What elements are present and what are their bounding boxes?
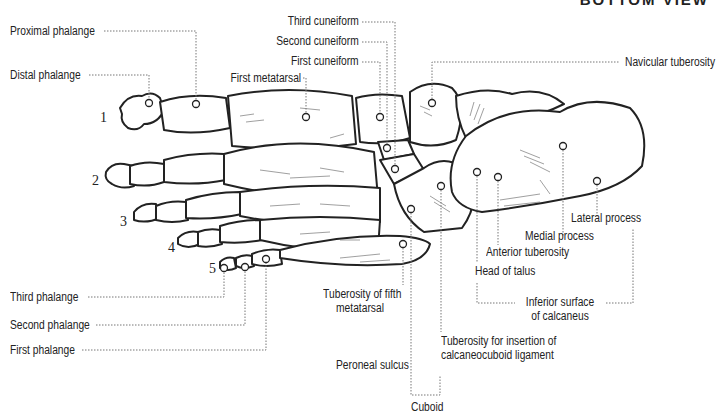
label-anterior-tuberosity: Anterior tuberosity [486, 245, 569, 259]
leader-proximal [104, 31, 196, 100]
leader-first-phalange [82, 263, 266, 350]
label-tuberosity-insertion-1: Tuberosity for insertion of [441, 334, 556, 348]
leader-second-phalange [96, 271, 245, 325]
label-third-phalange: Third phalange [10, 290, 78, 304]
label-tuberosity-fifth-1: Tuberosity of fifth [323, 287, 397, 301]
label-first-metatarsal: First metatarsal [230, 71, 301, 85]
toe4-distal [178, 232, 200, 247]
leader-inferior-a [477, 283, 515, 303]
marker-lateral-process [594, 178, 601, 185]
label-third-cuneiform: Third cuneiform [288, 14, 359, 28]
label-tuberosity-fifth-2: metatarsal [323, 301, 397, 315]
foot-bones-diagram: BOTTOM VIEW [0, 0, 717, 416]
label-inferior-surface-1: Inferior surface [523, 295, 597, 309]
toe-number-2: 2 [92, 173, 99, 189]
toe3-proximal [186, 192, 242, 219]
label-peroneal-sulcus: Peroneal sulcus [336, 358, 409, 372]
label-first-cuneiform: First cuneiform [291, 54, 359, 68]
marker-tuberosity-insertion [438, 183, 445, 190]
toe4-proximal [220, 220, 262, 243]
label-tuberosity-insertion-2: calcaneocuboid ligament [441, 348, 554, 362]
toe-number-1: 1 [100, 110, 107, 126]
label-first-phalange: First phalange [10, 343, 75, 357]
leader-third-phalange [88, 272, 224, 297]
marker-second-phalange [242, 264, 249, 271]
label-distal-phalange: Distal phalange [10, 68, 81, 82]
label-proximal-phalange: Proximal phalange [10, 24, 95, 38]
marker-anterior-tuberosity [495, 174, 502, 181]
marker-third-phalange [221, 265, 228, 272]
marker-peroneal-sulcus [408, 206, 415, 213]
marker-medial-process [560, 143, 567, 150]
navicular [410, 84, 461, 146]
toe3-middle [156, 202, 188, 223]
toe-number-3: 3 [120, 214, 127, 230]
marker-first-cuneiform [377, 114, 384, 121]
label-inferior-surface-2: of calcaneus [523, 309, 597, 323]
label-lateral-process: Lateral process [571, 211, 641, 225]
marker-first-metatarsal [303, 114, 310, 121]
toe1-distal-phalange [120, 93, 164, 129]
first-metatarsal [228, 90, 356, 149]
toe2-middle [130, 162, 164, 185]
label-medial-process: Medial process [525, 229, 594, 243]
toe4-middle [198, 229, 222, 246]
label-navicular-tuberosity: Navicular tuberosity [625, 55, 715, 69]
marker-navicular [429, 100, 436, 107]
marker-head-talus [474, 169, 481, 176]
leader-inferior-b [606, 228, 633, 303]
label-second-phalange: Second phalange [10, 318, 90, 332]
toe-number-5: 5 [209, 261, 216, 277]
marker-first-phalange [263, 256, 270, 263]
marker-distal-phalange [146, 100, 153, 107]
marker-second-cuneiform [384, 145, 391, 152]
toe-number-4: 4 [168, 240, 175, 256]
label-second-cuneiform: Second cuneiform [276, 34, 359, 48]
label-cuboid: Cuboid [411, 400, 443, 414]
marker-third-cuneiform [392, 166, 399, 173]
marker-proximal-phalange [193, 101, 200, 108]
marker-tuberosity-fifth [400, 241, 407, 248]
toe2-proximal [164, 154, 226, 184]
label-head-of-talus: Head of talus [475, 264, 535, 278]
